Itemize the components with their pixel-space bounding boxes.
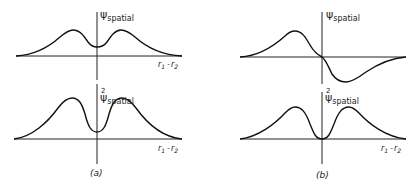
x-axis-label: r1-r2: [381, 144, 401, 154]
panel-a-top-plot: ψspatial r1-r2: [16, 8, 182, 80]
diagram-canvas: ψspatial r1-r2 2 ψspatial r1-r2 (a) ψspa…: [0, 0, 420, 189]
x-axis-label: r1-r2: [158, 60, 178, 70]
panel-b-top-plot: ψspatial: [240, 8, 406, 84]
probability-density-curve-symmetric: [14, 98, 182, 139]
panel-caption-b: (b): [316, 170, 329, 180]
wavefunction-curve-symmetric: [16, 30, 182, 56]
probability-density-curve-antisymmetric: [240, 107, 406, 139]
panel-caption-a: (a): [90, 168, 103, 178]
x-axis-label: r1-r2: [158, 144, 178, 154]
panel-b-bottom-plot: 2 ψspatial r1-r2: [240, 87, 406, 164]
panel-a: ψspatial r1-r2 2 ψspatial r1-r2 (a): [14, 8, 182, 178]
y-axis-label: ψspatial: [100, 91, 134, 106]
y-axis-label: ψspatial: [325, 91, 359, 106]
y-axis-label: ψspatial: [326, 8, 360, 23]
y-axis-label: ψspatial: [100, 8, 134, 23]
panel-b: ψspatial 2 ψspatial r1-r2 (b): [240, 8, 406, 180]
panel-a-bottom-plot: 2 ψspatial r1-r2: [14, 84, 182, 164]
